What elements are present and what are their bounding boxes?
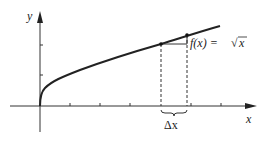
radicand: x <box>238 36 245 50</box>
svg-text:f(x) =: f(x) = <box>190 36 218 50</box>
radical-sign-icon: √ <box>231 36 238 50</box>
function-label: f(x) = √ x <box>190 36 247 50</box>
x-axis-arrow-icon <box>245 103 257 109</box>
sqrt-diagram: y x Δx f(x) = √ x <box>0 0 265 141</box>
point-x <box>159 42 163 46</box>
delta-x-brace <box>161 110 187 116</box>
y-axis-label: y <box>26 9 33 23</box>
x-axis-label: x <box>245 112 252 126</box>
point-x-plus-dx <box>185 33 189 37</box>
y-axis-arrow-icon <box>37 11 43 23</box>
function-label-lhs: f(x) = <box>190 36 218 50</box>
delta-x-label: Δx <box>164 118 178 132</box>
